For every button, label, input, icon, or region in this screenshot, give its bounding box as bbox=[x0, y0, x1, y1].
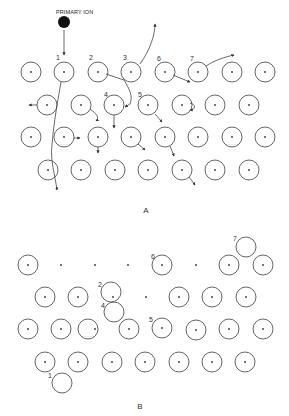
trajectory-arrow bbox=[106, 74, 131, 107]
atom-label: 6 bbox=[157, 55, 161, 62]
atom bbox=[222, 127, 242, 147]
atom bbox=[71, 160, 91, 180]
atom bbox=[121, 62, 141, 82]
atom bbox=[105, 160, 125, 180]
atom bbox=[186, 320, 206, 340]
atom bbox=[21, 127, 41, 147]
atom bbox=[71, 95, 91, 115]
atom bbox=[253, 319, 273, 339]
trajectory-arrow bbox=[155, 114, 162, 122]
atom bbox=[104, 302, 124, 322]
atom-label: 4 bbox=[104, 91, 108, 98]
atom-label: 7 bbox=[190, 55, 194, 62]
atom bbox=[172, 95, 192, 115]
panel-b: 762451 B bbox=[18, 235, 273, 411]
vacancy-dot bbox=[94, 264, 96, 266]
vacancy-dot bbox=[127, 264, 129, 266]
atom bbox=[18, 255, 38, 275]
atom-label: 2 bbox=[98, 281, 102, 288]
atom bbox=[18, 319, 38, 339]
atom bbox=[52, 373, 72, 393]
lattice-atoms-a bbox=[21, 62, 275, 180]
atom bbox=[188, 127, 208, 147]
trajectory-arrow bbox=[206, 55, 234, 66]
trajectory-arrow bbox=[90, 109, 98, 121]
atom bbox=[88, 62, 108, 82]
atom-labels-a: 1236745 bbox=[56, 54, 194, 98]
trajectory-arrow bbox=[138, 144, 145, 150]
atom bbox=[21, 62, 41, 82]
atom bbox=[37, 95, 57, 115]
atom bbox=[155, 127, 175, 147]
atom-label: 5 bbox=[149, 316, 153, 323]
vacancy-dot bbox=[60, 264, 62, 266]
sputtering-diagram: PRIMARY ION 1236745 A 762451 B bbox=[0, 0, 289, 416]
atom bbox=[54, 127, 74, 147]
atom-label: 2 bbox=[89, 54, 93, 61]
atom bbox=[202, 352, 222, 372]
atom-label: 7 bbox=[233, 235, 237, 242]
atom bbox=[239, 160, 259, 180]
panel-b-caption: B bbox=[137, 402, 142, 411]
lattice-atoms-b bbox=[18, 237, 273, 393]
trajectory-arrow bbox=[140, 24, 155, 64]
atom-label: 1 bbox=[48, 372, 52, 379]
panel-a: PRIMARY ION 1236745 A bbox=[21, 9, 275, 215]
atom bbox=[235, 352, 255, 372]
vacancy-dot bbox=[94, 328, 96, 330]
atom bbox=[88, 127, 108, 147]
atom bbox=[253, 255, 273, 275]
atom bbox=[155, 62, 175, 82]
atom bbox=[188, 62, 208, 82]
vacancy-sites-b bbox=[60, 264, 197, 330]
atom bbox=[138, 95, 158, 115]
atom bbox=[104, 95, 124, 115]
trajectory-arrow bbox=[173, 75, 190, 82]
atom bbox=[68, 352, 88, 372]
atom-label: 3 bbox=[123, 54, 127, 61]
atom bbox=[152, 318, 172, 338]
atom bbox=[138, 160, 158, 180]
atom bbox=[255, 127, 275, 147]
atom bbox=[101, 282, 121, 302]
atom bbox=[219, 255, 239, 275]
atom bbox=[169, 352, 189, 372]
panel-a-caption: A bbox=[143, 206, 149, 215]
atom bbox=[152, 255, 172, 275]
atom-label: 5 bbox=[138, 91, 142, 98]
trajectory-arrow bbox=[52, 82, 61, 190]
atom bbox=[35, 352, 55, 372]
atom-label: 1 bbox=[56, 54, 60, 61]
atom bbox=[239, 95, 259, 115]
trajectory-arrow bbox=[189, 177, 195, 185]
atom bbox=[54, 62, 74, 82]
primary-ion-label: PRIMARY ION bbox=[56, 9, 93, 15]
primary-ion bbox=[58, 16, 70, 28]
atom bbox=[205, 95, 225, 115]
atom bbox=[236, 237, 256, 257]
vacancy-dot bbox=[195, 264, 197, 266]
atom-label: 6 bbox=[151, 253, 155, 260]
atom bbox=[135, 352, 155, 372]
vacancy-dot bbox=[145, 296, 147, 298]
trajectory-arrow bbox=[170, 146, 174, 156]
atom bbox=[68, 287, 88, 307]
atom bbox=[169, 287, 189, 307]
vacancy-dot bbox=[112, 296, 114, 298]
atom bbox=[35, 287, 55, 307]
atom bbox=[222, 62, 242, 82]
atom bbox=[119, 319, 139, 339]
atom bbox=[102, 352, 122, 372]
atom bbox=[236, 287, 256, 307]
atom bbox=[219, 319, 239, 339]
atom bbox=[205, 160, 225, 180]
atom-label: 4 bbox=[101, 302, 105, 309]
atom bbox=[51, 319, 71, 339]
trajectories-a bbox=[29, 24, 234, 190]
atom bbox=[202, 287, 222, 307]
atom bbox=[255, 62, 275, 82]
